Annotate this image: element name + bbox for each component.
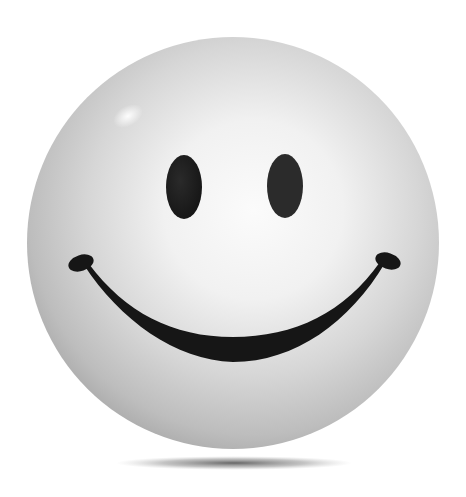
left-eye bbox=[166, 155, 202, 219]
ground-shadow bbox=[116, 456, 352, 470]
smiley-illustration bbox=[0, 0, 466, 497]
right-eye bbox=[267, 154, 303, 218]
sphere-body bbox=[27, 37, 439, 449]
smiley-image: Glossy grayscale smiley face sphere with… bbox=[0, 0, 466, 497]
